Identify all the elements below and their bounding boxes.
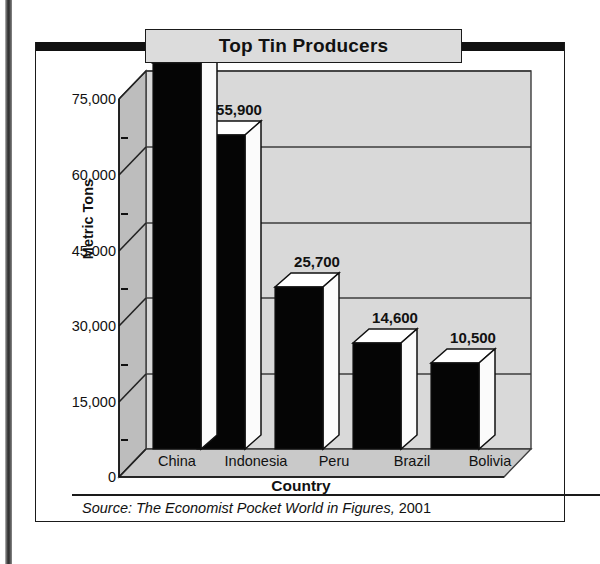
source-note-year: 2001 xyxy=(399,500,431,516)
y-tick-label-75000: 75,000 xyxy=(48,91,116,107)
page-gutter-shadow xyxy=(5,0,12,564)
x-tick-label-china: China xyxy=(137,453,217,469)
bar-peru[interactable] xyxy=(275,273,339,449)
y-axis-tick-labels: 0 15,000 30,000 45,000 60,000 75,000 xyxy=(48,43,116,523)
source-separator xyxy=(72,494,600,496)
source-note: Source: The Economist Pocket World in Fi… xyxy=(82,500,431,516)
y-tick-label-30000: 30,000 xyxy=(48,318,116,334)
x-axis-title: Country xyxy=(36,477,566,495)
x-tick-label-peru: Peru xyxy=(299,453,369,469)
y-tick-label-15000: 15,000 xyxy=(48,394,116,410)
chart-left-wall xyxy=(119,71,146,477)
chart-figure-box: Metric Tons 0 15,000 30,000 45,000 60,00… xyxy=(35,42,565,522)
y-tick-label-45000: 45,000 xyxy=(48,243,116,259)
x-tick-label-brazil: Brazil xyxy=(372,453,452,469)
value-label-peru: 25,700 xyxy=(272,253,362,270)
y-tick-label-60000: 60,000 xyxy=(48,167,116,183)
chart-title-plate: Top Tin Producers xyxy=(145,29,462,63)
y-minor-tick-52500 xyxy=(121,213,128,215)
value-label-indonesia: 55,900 xyxy=(194,101,284,118)
y-minor-tick-67500 xyxy=(121,137,128,139)
source-note-text: Source: The Economist Pocket World in Fi… xyxy=(82,500,395,516)
plot-area: Metric Tons 0 15,000 30,000 45,000 60,00… xyxy=(36,43,566,523)
x-tick-label-bolivia: Bolivia xyxy=(450,453,530,469)
y-minor-tick-7500 xyxy=(121,439,128,441)
bar-bolivia[interactable] xyxy=(431,349,495,449)
value-label-brazil: 14,600 xyxy=(350,309,440,326)
bar-brazil[interactable] xyxy=(353,329,417,449)
value-label-bolivia: 10,500 xyxy=(428,329,518,346)
x-tick-label-indonesia: Indonesia xyxy=(210,453,302,469)
chart-title: Top Tin Producers xyxy=(219,35,389,57)
y-minor-tick-37500 xyxy=(121,288,128,290)
y-minor-tick-22500 xyxy=(121,364,128,366)
